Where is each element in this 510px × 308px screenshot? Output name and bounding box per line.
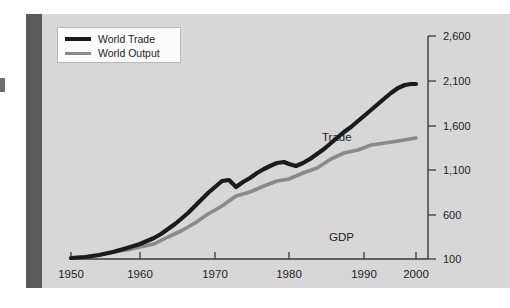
series-annotation-gdp: GDP <box>329 231 354 243</box>
x-tick-label-1960: 1960 <box>127 268 153 280</box>
y-tick-marks <box>428 36 436 259</box>
x-tick-marks <box>71 252 416 259</box>
legend-item-world-trade: World Trade <box>65 32 180 46</box>
legend-label-world-output: World Output <box>98 47 160 60</box>
x-tick-label-1990: 1990 <box>351 268 377 280</box>
axis-spines <box>71 36 428 259</box>
y-tick-label-1100: 1,100 <box>443 164 471 176</box>
x-tick-label-1980: 1980 <box>276 268 302 280</box>
y-tick-label-1600: 1,600 <box>443 120 471 132</box>
legend-swatch-world-output <box>65 52 91 55</box>
x-tick-label-1970: 1970 <box>202 268 228 280</box>
legend-swatch-world-trade <box>65 37 91 41</box>
series-annotation-trade: Trade <box>322 131 352 143</box>
y-tick-label-2600: 2,600 <box>443 30 471 42</box>
x-tick-label-1950: 1950 <box>58 268 84 280</box>
y-tick-label-100: 100 <box>443 253 461 265</box>
y-tick-label-2100: 2,100 <box>443 75 471 87</box>
y-tick-label-600: 600 <box>443 209 461 221</box>
legend-label-world-trade: World Trade <box>98 33 155 46</box>
chart-legend: World Trade World Output <box>57 27 181 63</box>
figure-container: World Trade World Output 2,600 2,100 1,6… <box>0 0 510 308</box>
legend-item-world-output: World Output <box>65 46 180 60</box>
series-line-world-output <box>71 138 416 258</box>
x-tick-label-2000: 2000 <box>403 268 429 280</box>
series-line-world-trade <box>71 84 416 258</box>
